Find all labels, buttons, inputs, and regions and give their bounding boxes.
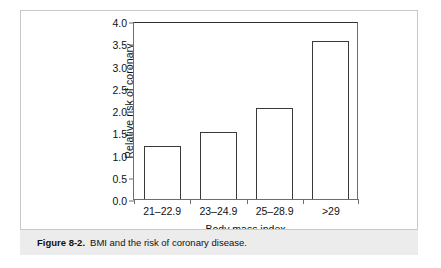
figure-caption-label: Figure 8-2. — [37, 237, 85, 248]
y-axis-tick-mark — [129, 134, 134, 135]
figure-caption: Figure 8-2.BMI and the risk of coronary … — [20, 237, 247, 248]
figure-caption-band: Figure 8-2.BMI and the risk of coronary … — [20, 229, 418, 255]
x-axis-tick-mark — [358, 199, 359, 204]
figure-container: Relative risk of coronary heart disease … — [0, 0, 441, 268]
y-axis-tick-mark — [129, 67, 134, 68]
y-axis-tick-mark — [129, 178, 134, 179]
y-axis-tick-mark — [129, 156, 134, 157]
plot-area: 0.00.51.01.52.02.53.03.54.0 21–22.923–24… — [133, 22, 358, 200]
bar — [200, 132, 237, 199]
bar — [256, 108, 293, 199]
bar — [144, 146, 181, 199]
y-axis-tick-mark — [129, 112, 134, 113]
bar — [312, 41, 349, 199]
figure-caption-body: BMI and the risk of coronary disease. — [90, 237, 247, 248]
y-axis-tick-mark — [129, 23, 134, 24]
y-axis-tick-mark — [129, 89, 134, 90]
y-axis-tick-mark — [129, 45, 134, 46]
chart-plot-region: Relative risk of coronary heart disease … — [20, 10, 418, 228]
